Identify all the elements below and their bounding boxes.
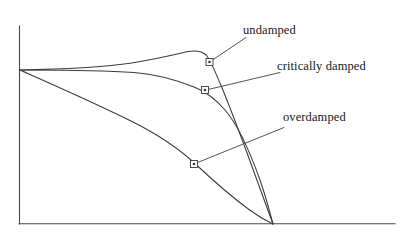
annotation-label-overdamped: overdamped — [283, 111, 346, 124]
leader-line-undamped — [210, 38, 247, 63]
marker-critically-damped — [202, 87, 209, 94]
marker-overdamped — [191, 161, 198, 168]
annotation-label-undamped: undamped — [243, 24, 296, 37]
markers-group — [191, 59, 214, 168]
damping-response-figure: undamped critically damped overdamped — [0, 0, 403, 237]
curves-group — [20, 51, 273, 224]
leader-line-overdamped — [194, 128, 284, 165]
annotation-label-critically-damped: critically damped — [277, 60, 366, 73]
marker-undamped — [206, 59, 213, 66]
curve-undamped — [20, 51, 273, 224]
